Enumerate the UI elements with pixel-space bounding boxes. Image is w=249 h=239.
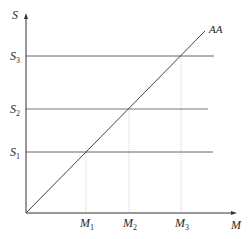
aa-label: AA: [208, 23, 223, 35]
label-m1: M1: [79, 216, 94, 232]
x-axis-arrow-icon: [231, 211, 237, 215]
label-s1: S1: [10, 145, 20, 161]
aa-curve: [26, 31, 205, 213]
label-m2: M2: [122, 216, 137, 232]
x-axis-label: M: [230, 218, 242, 232]
y-axis-label: S: [12, 8, 18, 22]
diagram: S M AA S3 S2 S1 M1 M2 M3: [0, 0, 249, 239]
label-m3: M3: [174, 216, 189, 232]
y-axis-arrow-icon: [24, 13, 28, 19]
label-s2: S2: [10, 102, 20, 118]
label-s3: S3: [10, 49, 20, 65]
